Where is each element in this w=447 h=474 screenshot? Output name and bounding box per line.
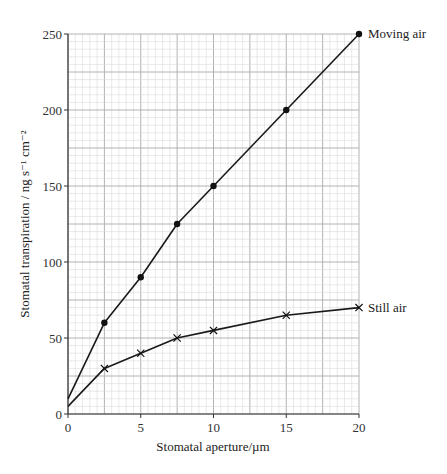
data-point-dot [356, 31, 362, 37]
data-point-dot [138, 274, 144, 280]
data-point-dot [101, 320, 107, 326]
y-tick-label: 250 [43, 27, 63, 42]
data-point-dot [283, 107, 289, 113]
chart: 05101520 050100150200250 Moving airStill… [0, 0, 447, 474]
y-axis-title: Stomatal transpiration / ng s⁻¹ cm⁻² [17, 130, 32, 317]
x-tick-label: 5 [138, 420, 145, 435]
series-label: Still air [368, 300, 407, 315]
x-tick-label: 15 [280, 420, 293, 435]
x-tick-label: 20 [353, 420, 366, 435]
x-tick-label: 0 [65, 420, 72, 435]
series-label: Moving air [368, 26, 427, 41]
y-tick-label: 150 [43, 179, 63, 194]
x-axis-ticks: 05101520 [65, 414, 366, 435]
data-point-dot [210, 183, 216, 189]
y-tick-label: 0 [56, 407, 63, 422]
x-tick-label: 10 [207, 420, 220, 435]
x-axis-title: Stomatal aperture/µm [156, 439, 269, 454]
series-moving-air: Moving air [68, 26, 427, 399]
y-axis-ticks: 050100150200250 [43, 27, 69, 422]
grid [68, 34, 359, 414]
y-tick-label: 200 [43, 103, 63, 118]
data-point-dot [174, 221, 180, 227]
y-tick-label: 50 [49, 331, 62, 346]
y-tick-label: 100 [43, 255, 63, 270]
